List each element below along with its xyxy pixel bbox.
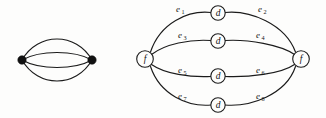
node-f-right: f [293, 51, 310, 68]
edge-label-e4-sub: 4 [262, 34, 265, 41]
figure-canvas: d d d d f f [0, 0, 326, 118]
edge-label-e2-base: e [258, 4, 262, 14]
node-d-3-label: d [216, 71, 221, 81]
edge-label-e6-base: e [256, 65, 260, 75]
node-d-1-label: d [216, 8, 221, 18]
edge-label-e3: e 3 [178, 30, 187, 41]
node-d-4: d [211, 98, 225, 112]
edge-label-e2: e 2 [258, 4, 267, 15]
node-d-2: d [211, 34, 225, 48]
left-edge-1 [22, 39, 92, 60]
edge-label-e7-base: e [178, 91, 182, 101]
left-edge-4 [22, 60, 92, 81]
edge-label-e1-sub: 1 [182, 8, 185, 15]
edge-label-e1-base: e [176, 4, 180, 14]
edge-label-e1: e 1 [176, 4, 185, 15]
right-edge-e2-path [225, 12, 296, 52]
left-vertex-dot-b [88, 56, 96, 64]
right-edge-e8-path [225, 67, 296, 106]
left-vertex-dot-a [18, 56, 26, 64]
edge-label-e8: e 8 [256, 91, 265, 102]
node-d-3: d [211, 69, 225, 83]
left-multigraph [18, 39, 96, 81]
left-edge-2 [22, 53, 92, 61]
edge-label-e4-base: e [256, 30, 260, 40]
node-d-1: d [211, 6, 225, 20]
edge-label-e5-base: e [178, 65, 182, 75]
node-d-4-label: d [216, 100, 221, 110]
edge-label-e2-sub: 2 [264, 8, 267, 15]
edge-label-e8-sub: 8 [262, 95, 265, 102]
edge-label-e5-sub: 5 [184, 69, 187, 76]
right-edge-e4-path [225, 40, 295, 54]
left-edge-3 [22, 60, 92, 68]
edge-label-e3-base: e [178, 30, 182, 40]
edge-label-e8-base: e [256, 91, 260, 101]
edge-label-e4: e 4 [256, 30, 265, 41]
right-subdivided-graph: d d d d f f [137, 4, 310, 112]
edge-label-e7-sub: 7 [184, 95, 187, 102]
node-d-2-label: d [216, 36, 221, 46]
right-edge-e3-path [152, 40, 212, 54]
graph-figure: d d d d f f [0, 0, 326, 118]
edge-label-e6-sub: 6 [262, 69, 265, 76]
edge-label-e3-sub: 3 [184, 34, 187, 41]
node-f-left: f [137, 51, 154, 68]
